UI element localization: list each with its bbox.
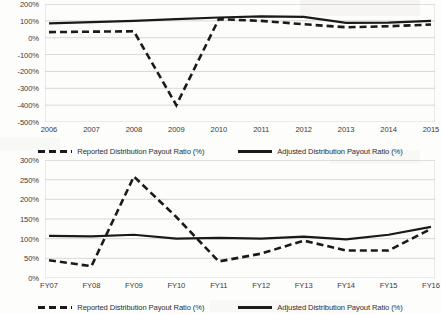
- y-tick-label: -200%: [18, 67, 39, 76]
- x-tick-label: FY10: [167, 281, 185, 290]
- legend-label-reported: Reported Distribution Payout Ratio (%): [77, 303, 204, 312]
- chart-top-series: [49, 16, 431, 105]
- figure-page: 200%100%0%-100%-200%-300%-400%-500% 2006…: [0, 0, 441, 314]
- y-tick-label: 0%: [28, 33, 39, 42]
- x-tick-label: 2008: [126, 125, 143, 134]
- dashed-line-icon: [38, 147, 72, 156]
- x-tick-label: FY07: [40, 281, 58, 290]
- y-tick-label: 250%: [20, 175, 39, 184]
- chart-bottom-x-axis: FY07FY08FY09FY10FY11FY12FY13FY14FY15FY16: [45, 278, 435, 293]
- solid-line-icon: [238, 147, 272, 156]
- y-tick-label: 200%: [20, 0, 39, 9]
- chart-bottom-y-axis: 300%250%200%150%100%50%0%: [0, 160, 42, 278]
- y-tick-label: -100%: [18, 50, 39, 59]
- y-tick-label: 200%: [20, 195, 39, 204]
- x-tick-label: 2015: [423, 125, 440, 134]
- x-tick-label: 2009: [168, 125, 185, 134]
- chart-top-x-axis: 2006200720082009201020112012201320142015: [45, 122, 435, 137]
- x-tick-label: FY16: [422, 281, 440, 290]
- x-tick-label: FY13: [295, 281, 313, 290]
- series-line: [49, 177, 431, 267]
- chart-top-plot-area: 200%100%0%-100%-200%-300%-400%-500%: [0, 4, 441, 122]
- chart-bottom-series: [49, 177, 431, 267]
- y-tick-label: 100%: [20, 234, 39, 243]
- y-tick-label: 100%: [20, 16, 39, 25]
- x-tick-label: FY12: [252, 281, 270, 290]
- x-tick-label: 2010: [211, 125, 228, 134]
- x-tick-label: FY14: [337, 281, 355, 290]
- x-tick-label: FY11: [210, 281, 227, 290]
- chart-bottom-plot-area: 300%250%200%150%100%50%0%: [0, 160, 441, 278]
- series-line: [49, 19, 431, 105]
- legend-item-adjusted[interactable]: Adjusted Distribution Payout Ratio (%): [238, 147, 402, 156]
- y-tick-label: 300%: [20, 156, 39, 165]
- x-tick-label: 2011: [253, 125, 269, 134]
- legend-label-adjusted: Adjusted Distribution Payout Ratio (%): [277, 303, 402, 312]
- y-tick-label: 0%: [28, 274, 39, 283]
- x-tick-label: FY15: [380, 281, 398, 290]
- y-tick-label: -400%: [18, 101, 39, 110]
- y-tick-label: -500%: [18, 118, 39, 127]
- chart-top-svg: [45, 4, 435, 122]
- legend-label-adjusted: Adjusted Distribution Payout Ratio (%): [277, 147, 402, 156]
- x-tick-label: 2014: [380, 125, 397, 134]
- chart-bottom: 300%250%200%150%100%50%0% FY07FY08FY09FY…: [0, 160, 441, 312]
- x-tick-label: FY08: [83, 281, 101, 290]
- chart-top-legend: Reported Distribution Payout Ratio (%) A…: [0, 141, 441, 161]
- legend-item-reported[interactable]: Reported Distribution Payout Ratio (%): [38, 303, 204, 312]
- y-tick-label: 150%: [20, 215, 39, 224]
- x-tick-label: 2006: [41, 125, 58, 134]
- x-tick-label: FY09: [125, 281, 143, 290]
- y-tick-label: -300%: [18, 84, 39, 93]
- chart-top: 200%100%0%-100%-200%-300%-400%-500% 2006…: [0, 4, 441, 156]
- chart-bottom-canvas: [45, 160, 435, 278]
- legend-label-reported: Reported Distribution Payout Ratio (%): [77, 147, 204, 156]
- chart-bottom-svg: [45, 160, 435, 278]
- chart-bottom-gridlines: [45, 160, 435, 278]
- dashed-line-icon: [38, 303, 72, 312]
- y-tick-label: 50%: [24, 254, 39, 263]
- legend-item-adjusted[interactable]: Adjusted Distribution Payout Ratio (%): [238, 303, 402, 312]
- x-tick-label: 2012: [295, 125, 312, 134]
- chart-bottom-legend: Reported Distribution Payout Ratio (%) A…: [0, 297, 441, 314]
- solid-line-icon: [238, 303, 272, 312]
- chart-top-canvas: [45, 4, 435, 122]
- legend-item-reported[interactable]: Reported Distribution Payout Ratio (%): [38, 147, 204, 156]
- chart-top-y-axis: 200%100%0%-100%-200%-300%-400%-500%: [0, 4, 42, 122]
- x-tick-label: 2013: [338, 125, 355, 134]
- x-tick-label: 2007: [83, 125, 100, 134]
